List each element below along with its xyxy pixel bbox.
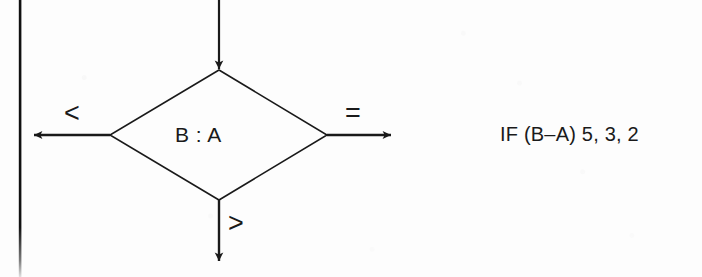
page-margin-rule xyxy=(19,0,22,277)
branch-label-less-than: < xyxy=(64,100,80,127)
branch-label-equal: = xyxy=(345,100,361,127)
figure-page: B : A < = > IF (B–A) 5, 3, 2 xyxy=(0,0,702,277)
annotation-statement: IF (B–A) 5, 3, 2 xyxy=(500,124,639,144)
decision-label: B : A xyxy=(175,124,222,145)
branch-label-greater-than: > xyxy=(228,210,244,237)
